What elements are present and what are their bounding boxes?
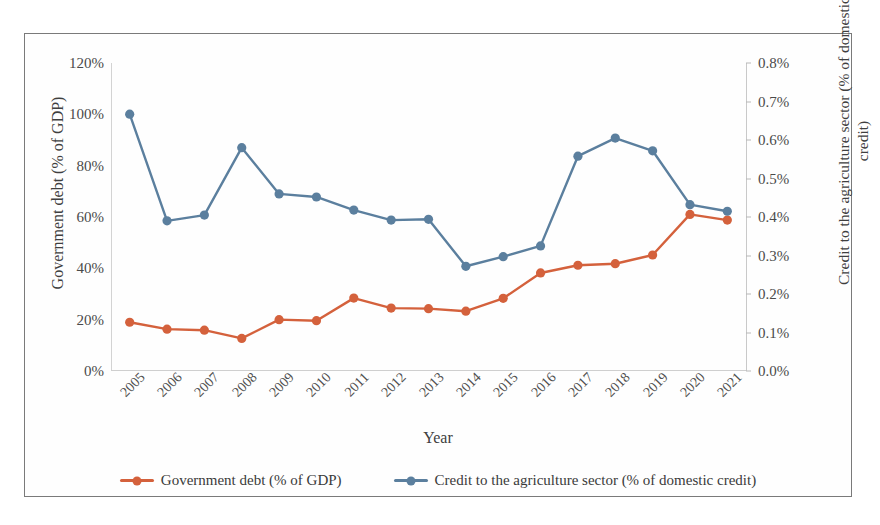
- legend-swatch-icon: [120, 479, 154, 482]
- data-point-marker: [424, 215, 433, 224]
- x-tick-label: 2006: [154, 369, 185, 400]
- x-tick-label: 2014: [453, 369, 484, 400]
- right-tick-mark: [746, 140, 751, 141]
- series-line: [130, 114, 728, 266]
- legend-label: Credit to the agriculture sector (% of d…: [435, 472, 757, 489]
- data-point-marker: [499, 294, 508, 303]
- data-point-marker: [349, 205, 358, 214]
- x-tick-label: 2011: [341, 370, 372, 401]
- data-point-marker: [274, 189, 283, 198]
- right-tick-mark: [746, 101, 751, 102]
- data-point-marker: [536, 241, 545, 250]
- right-tick-label: 0.4%: [758, 209, 789, 226]
- legend-swatch-icon: [394, 479, 428, 482]
- right-tick-label: 0.8%: [758, 55, 789, 72]
- data-point-marker: [162, 216, 171, 225]
- right-tick-label: 0.2%: [758, 286, 789, 303]
- left-tick-label: 100%: [69, 106, 104, 123]
- left-tick-label: 20%: [77, 311, 105, 328]
- data-point-marker: [312, 316, 321, 325]
- right-tick-mark: [746, 63, 751, 64]
- right-tick-mark: [746, 255, 751, 256]
- data-point-marker: [611, 259, 620, 268]
- data-point-marker: [200, 210, 209, 219]
- data-point-marker: [685, 210, 694, 219]
- right-tick-mark: [746, 178, 751, 179]
- legend-item[interactable]: Government debt (% of GDP): [120, 472, 342, 489]
- x-tick-label: 2021: [715, 369, 746, 400]
- right-tick-label: 0.7%: [758, 93, 789, 110]
- x-tick-label: 2008: [229, 369, 260, 400]
- data-point-marker: [536, 268, 545, 277]
- chart-legend: Government debt (% of GDP)Credit to the …: [25, 472, 851, 489]
- data-point-marker: [312, 192, 321, 201]
- right-tick-label: 0.0%: [758, 363, 789, 380]
- data-point-marker: [461, 307, 470, 316]
- plot-area: 0%20%40%60%80%100%120% 0.0%0.1%0.2%0.3%0…: [111, 63, 746, 371]
- series-lines: [111, 63, 746, 371]
- left-tick-label: 0%: [84, 363, 104, 380]
- data-point-marker: [349, 294, 358, 303]
- data-point-marker: [274, 315, 283, 324]
- data-point-marker: [125, 318, 134, 327]
- data-point-marker: [648, 146, 657, 155]
- left-tick-label: 80%: [77, 157, 105, 174]
- right-tick-mark: [746, 371, 751, 372]
- x-tick-label: 2016: [528, 369, 559, 400]
- x-tick-label: 2010: [304, 369, 335, 400]
- left-axis-title: Government debt (% of GDP): [49, 68, 67, 318]
- x-tick-label: 2018: [603, 369, 634, 400]
- x-axis-title: Year: [25, 429, 851, 447]
- data-point-marker: [573, 152, 582, 161]
- x-tick-label: 2005: [117, 369, 148, 400]
- right-tick-mark: [746, 332, 751, 333]
- data-point-marker: [200, 326, 209, 335]
- data-point-marker: [685, 200, 694, 209]
- data-point-marker: [723, 215, 732, 224]
- right-tick-mark: [746, 294, 751, 295]
- data-point-marker: [387, 215, 396, 224]
- series-line: [130, 214, 728, 338]
- data-point-marker: [648, 250, 657, 259]
- data-point-marker: [573, 261, 582, 270]
- left-tick-label: 120%: [69, 55, 104, 72]
- data-point-marker: [162, 325, 171, 334]
- x-tick-label: 2013: [416, 369, 447, 400]
- chart-figure: Government debt (% of GDP) Credit to the…: [24, 33, 852, 497]
- right-tick-label: 0.6%: [758, 132, 789, 149]
- right-tick-label: 0.5%: [758, 170, 789, 187]
- legend-item[interactable]: Credit to the agriculture sector (% of d…: [394, 472, 757, 489]
- x-tick-label: 2009: [266, 369, 297, 400]
- right-tick-label: 0.1%: [758, 324, 789, 341]
- data-point-marker: [387, 304, 396, 313]
- data-point-marker: [424, 304, 433, 313]
- legend-label: Government debt (% of GDP): [161, 472, 342, 489]
- data-point-marker: [723, 207, 732, 216]
- left-tick-label: 40%: [77, 260, 105, 277]
- x-tick-label: 2019: [640, 369, 671, 400]
- x-tick-label: 2012: [379, 369, 410, 400]
- right-tick-mark: [746, 217, 751, 218]
- data-point-marker: [611, 133, 620, 142]
- x-tick-label: 2015: [491, 369, 522, 400]
- right-tick-label: 0.3%: [758, 247, 789, 264]
- data-point-marker: [125, 110, 134, 119]
- x-tick-label: 2007: [192, 369, 223, 400]
- data-point-marker: [237, 143, 246, 152]
- x-tick-label: 2020: [677, 369, 708, 400]
- data-point-marker: [499, 252, 508, 261]
- x-tick-label: 2017: [565, 369, 596, 400]
- right-axis-title: Credit to the agriculture sector (% of d…: [834, 0, 872, 306]
- data-point-marker: [237, 334, 246, 343]
- left-tick-label: 60%: [77, 209, 105, 226]
- data-point-marker: [461, 262, 470, 271]
